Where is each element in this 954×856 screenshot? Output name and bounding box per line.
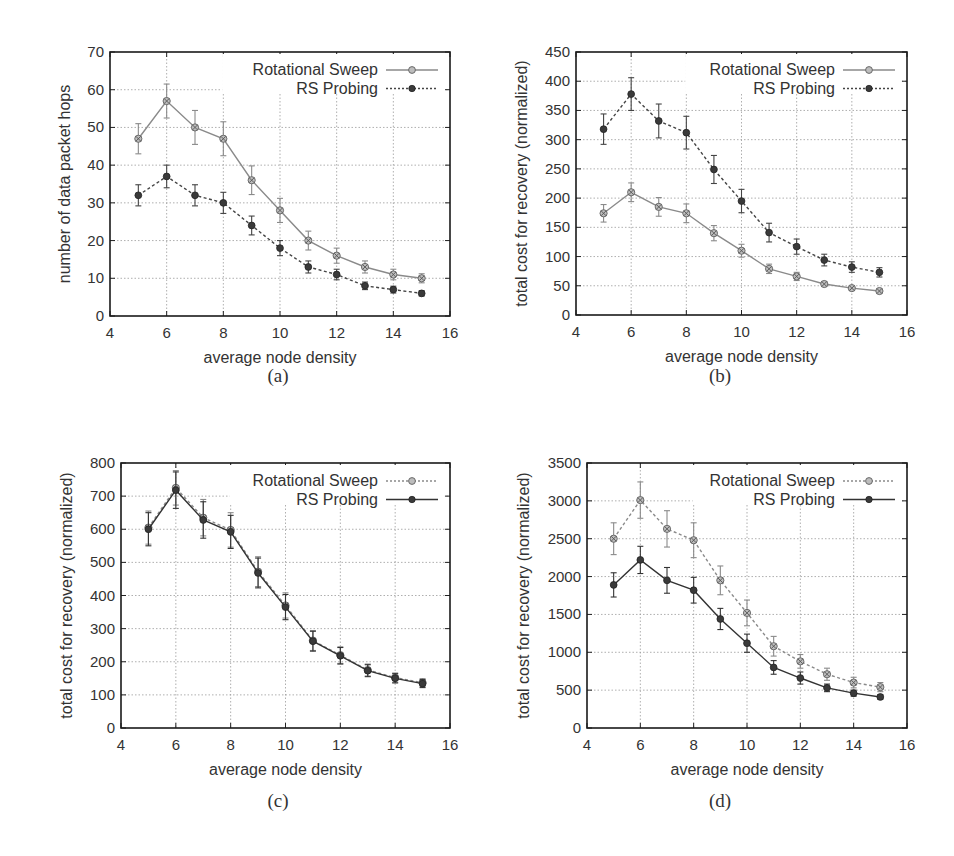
legend-label: RS Probing: [753, 491, 835, 508]
x-tick-label: 6: [636, 736, 644, 753]
legend-label: Rotational Sweep: [710, 472, 836, 489]
y-tick-label: 2500: [548, 530, 581, 547]
y-tick-label: 3000: [548, 492, 581, 509]
x-tick-label: 8: [689, 736, 697, 753]
data-point-marker: [770, 664, 777, 671]
y-tick-label: 0: [573, 719, 581, 736]
legend-marker-icon: [866, 496, 872, 502]
y-tick-label: 1500: [548, 605, 581, 622]
y-tick-label: 1000: [548, 643, 581, 660]
data-point-marker: [797, 675, 804, 682]
data-point-marker: [850, 690, 857, 697]
data-point-marker: [664, 577, 671, 584]
x-axis-label: average node density: [671, 761, 824, 778]
y-axis-label: total cost for recovery (normalized): [515, 472, 532, 718]
data-point-marker: [637, 557, 644, 564]
x-tick-label: 4: [583, 736, 591, 753]
y-tick-label: 2000: [548, 568, 581, 585]
data-point-marker: [610, 582, 617, 589]
y-tick-label: 500: [556, 681, 581, 698]
x-tick-label: 16: [899, 736, 916, 753]
legend-marker-icon: [866, 478, 873, 485]
data-point-marker: [824, 684, 831, 691]
line-chart-d: 468101214160500100015002000250030003500R…: [0, 0, 954, 856]
data-point-marker: [690, 587, 697, 594]
x-tick-label: 12: [792, 736, 809, 753]
chart-panel-d: 468101214160500100015002000250030003500R…: [0, 0, 954, 856]
panel-caption-d: (d): [709, 790, 731, 812]
data-point-marker: [717, 616, 724, 623]
y-tick-label: 3500: [548, 454, 581, 471]
x-tick-label: 10: [739, 736, 756, 753]
x-tick-label: 14: [845, 736, 862, 753]
data-point-marker: [744, 640, 751, 647]
data-point-marker: [877, 694, 884, 701]
